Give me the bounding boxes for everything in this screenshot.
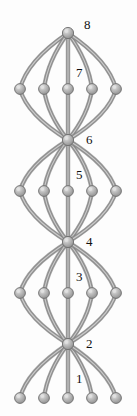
node-specular-highlight — [41, 289, 45, 293]
node-circle — [63, 393, 74, 404]
node-label-6: 6 — [86, 133, 93, 146]
node-specular-highlight — [17, 187, 21, 191]
node-circle — [87, 84, 98, 95]
graph-hub-node[interactable] — [62, 236, 73, 247]
node-specular-highlight — [64, 238, 68, 242]
node-circle — [15, 186, 26, 197]
node-circle — [63, 84, 74, 95]
node-circle — [111, 288, 122, 299]
graph-node[interactable] — [15, 186, 26, 197]
node-specular-highlight — [65, 289, 69, 293]
node-label-5: 5 — [76, 168, 83, 181]
node-circle — [39, 186, 50, 197]
node-circle — [39, 393, 50, 404]
node-circle — [15, 84, 26, 95]
node-specular-highlight — [17, 394, 21, 398]
node-label-1: 1 — [76, 372, 83, 385]
node-circle — [87, 393, 98, 404]
node-specular-highlight — [89, 187, 93, 191]
node-circle — [39, 84, 50, 95]
node-specular-highlight — [113, 394, 117, 398]
node-specular-highlight — [41, 187, 45, 191]
graph-node[interactable] — [111, 186, 122, 197]
graph-node[interactable] — [63, 288, 74, 299]
node-specular-highlight — [65, 85, 69, 89]
graph-canvas — [0, 0, 137, 416]
node-circle — [39, 288, 50, 299]
graph-node[interactable] — [15, 393, 26, 404]
graph-node[interactable] — [63, 84, 74, 95]
node-specular-highlight — [17, 85, 21, 89]
graph-node[interactable] — [87, 288, 98, 299]
node-circle — [63, 288, 74, 299]
node-label-8: 8 — [84, 18, 91, 31]
node-circle — [62, 236, 73, 247]
graph-hub-node[interactable] — [62, 134, 73, 145]
graph-node[interactable] — [87, 393, 98, 404]
node-circle — [63, 186, 74, 197]
graph-node[interactable] — [87, 84, 98, 95]
node-circle — [62, 338, 73, 349]
node-circle — [62, 27, 73, 38]
node-label-4: 4 — [86, 235, 93, 248]
node-circle — [87, 288, 98, 299]
node-specular-highlight — [89, 394, 93, 398]
graph-node[interactable] — [111, 84, 122, 95]
node-specular-highlight — [64, 136, 68, 140]
graph-node[interactable] — [15, 288, 26, 299]
node-specular-highlight — [113, 85, 117, 89]
graph-hub-node[interactable] — [62, 27, 73, 38]
node-specular-highlight — [113, 289, 117, 293]
node-circle — [111, 84, 122, 95]
node-circle — [15, 393, 26, 404]
graph-node[interactable] — [39, 186, 50, 197]
node-specular-highlight — [41, 394, 45, 398]
node-circle — [111, 393, 122, 404]
graph-node[interactable] — [39, 84, 50, 95]
node-specular-highlight — [65, 394, 69, 398]
node-specular-highlight — [89, 289, 93, 293]
node-specular-highlight — [41, 85, 45, 89]
node-circle — [15, 288, 26, 299]
graph-node[interactable] — [111, 393, 122, 404]
node-specular-highlight — [65, 187, 69, 191]
node-label-7: 7 — [76, 66, 83, 79]
graph-node[interactable] — [87, 186, 98, 197]
graph-node[interactable] — [111, 288, 122, 299]
node-label-3: 3 — [76, 270, 83, 283]
node-specular-highlight — [64, 29, 68, 33]
node-specular-highlight — [64, 340, 68, 344]
node-label-2: 2 — [86, 337, 93, 350]
graph-node[interactable] — [39, 288, 50, 299]
graph-node[interactable] — [39, 393, 50, 404]
graph-figure: 87654321 — [0, 0, 137, 416]
node-specular-highlight — [89, 85, 93, 89]
graph-hub-node[interactable] — [62, 338, 73, 349]
node-specular-highlight — [113, 187, 117, 191]
graph-node[interactable] — [15, 84, 26, 95]
node-circle — [87, 186, 98, 197]
graph-node[interactable] — [63, 186, 74, 197]
node-specular-highlight — [17, 289, 21, 293]
node-circle — [62, 134, 73, 145]
graph-node[interactable] — [63, 393, 74, 404]
node-circle — [111, 186, 122, 197]
